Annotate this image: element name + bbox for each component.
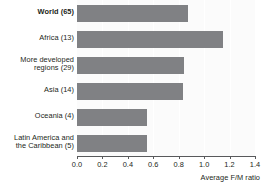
category-label: Africa (13) (0, 34, 74, 43)
category-label-line: Oceania (4) (0, 112, 74, 121)
bar (77, 135, 147, 152)
category-label-line: World (65) (0, 8, 74, 17)
category-label: Asia (14) (0, 86, 74, 95)
bar-chart: World (65)Africa (13)More developedregio… (0, 0, 263, 187)
x-tick (128, 156, 129, 159)
category-label: Oceania (4) (0, 112, 74, 121)
category-label-line: regions (29) (0, 64, 74, 73)
category-label-line: Asia (14) (0, 86, 74, 95)
x-tick (77, 156, 78, 159)
bar (77, 31, 223, 48)
bar (77, 109, 147, 126)
bar (77, 83, 183, 100)
x-tick (179, 156, 180, 159)
gridline (102, 0, 103, 156)
bar (77, 57, 184, 74)
gridline (255, 0, 256, 156)
x-tick (204, 156, 205, 159)
category-label-line: the Caribbean (5) (0, 142, 74, 151)
x-tick (255, 156, 256, 159)
bar (77, 5, 188, 22)
x-tick (153, 156, 154, 159)
plot-area (77, 0, 255, 156)
gridline (179, 0, 180, 156)
gridline (153, 0, 154, 156)
category-label: World (65) (0, 8, 74, 17)
x-axis-title: Average F/M ratio (201, 173, 260, 182)
x-tick (230, 156, 231, 159)
gridline (230, 0, 231, 156)
category-label: More developedregions (29) (0, 56, 74, 73)
gridline (204, 0, 205, 156)
gridline (128, 0, 129, 156)
x-tick (102, 156, 103, 159)
x-tick-label: 1.4 (240, 160, 263, 169)
category-label: Latin America andthe Caribbean (5) (0, 134, 74, 151)
x-axis-line (77, 156, 255, 157)
category-label-line: Africa (13) (0, 34, 74, 43)
category-axis-labels: World (65)Africa (13)More developedregio… (0, 0, 74, 156)
